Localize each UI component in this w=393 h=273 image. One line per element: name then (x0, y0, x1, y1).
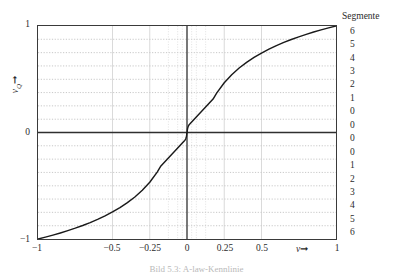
segment-label-13: 4 (350, 202, 355, 212)
x-axis-label: v➞ (296, 243, 307, 254)
segment-label-9: 0 (350, 148, 355, 158)
segment-label-8: 0 (350, 134, 355, 144)
x-tick-label-minus0.25: −0.25 (139, 244, 161, 254)
segment-label-2: 4 (350, 54, 355, 64)
segment-label-4: 2 (350, 81, 355, 91)
figure-caption: Bild 5.3: A-law-Kennlinie (0, 264, 393, 273)
x-axis-arrow-icon: ➞ (300, 244, 307, 254)
x-tick-label-0.5: 0.5 (256, 244, 268, 254)
segment-label-0: 6 (350, 27, 355, 37)
segment-label-10: 1 (350, 161, 355, 171)
y-axis-arrow-icon: ➞ (10, 77, 20, 84)
characteristic-curve (38, 26, 336, 239)
segment-label-1: 5 (350, 40, 355, 50)
segment-label-12: 3 (350, 188, 355, 198)
segment-label-5: 1 (350, 94, 355, 104)
y-axis-label: vQ➞ (9, 60, 23, 110)
x-tick-label-minus1: −1 (32, 244, 42, 254)
curve-path (38, 26, 336, 239)
x-tick-label-minus0.5: −0.5 (103, 244, 120, 254)
y-axis-name-subscript: Q (15, 84, 23, 89)
segment-label-6: 0 (350, 108, 355, 118)
segmente-title: Segmente (342, 11, 379, 21)
segment-label-14: 5 (350, 215, 355, 225)
plot-area (37, 25, 337, 240)
segment-label-15: 6 (350, 229, 355, 239)
segment-label-7: 0 (350, 121, 355, 131)
x-tick-label-0: 0 (185, 244, 190, 254)
x-tick-label-1: 1 (335, 244, 340, 254)
segment-label-11: 2 (350, 175, 355, 185)
segment-label-3: 3 (350, 67, 355, 77)
figure-companding-characteristic: vQ➞ 1 0 −1 (0, 0, 393, 273)
x-tick-label-0.25: 0.25 (217, 244, 234, 254)
y-axis-name-text: v (10, 89, 20, 93)
